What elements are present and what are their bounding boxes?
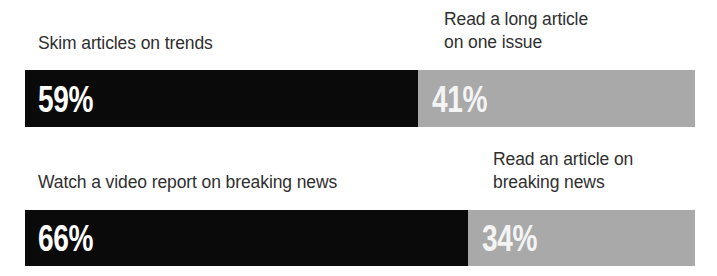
bar-value-label-34: 34% [482, 221, 537, 257]
category-label-read-article-breaking-news: Read an article on breaking news [493, 148, 633, 194]
category-label-read-long-article: Read a long article on one issue [444, 8, 588, 54]
bar-value-label-66: 66% [38, 221, 93, 257]
stacked-bar-chart-skim-vs-read: Skim articles on trends Read a long arti… [0, 0, 717, 138]
bar-segment-read-long-article: 41% [418, 70, 695, 127]
bar-segment-watch-video-report: 66% [25, 210, 468, 266]
bar-track: 66% 34% [25, 210, 695, 266]
bar-value-label-41: 41% [432, 82, 487, 118]
bar-track: 59% 41% [25, 70, 695, 127]
bar-segment-read-article-breaking-news: 34% [468, 210, 695, 266]
bar-segment-skim-articles: 59% [25, 70, 418, 127]
stacked-bar-chart-watch-vs-read: Watch a video report on breaking news Re… [0, 138, 717, 276]
category-label-skim-articles: Skim articles on trends [38, 32, 213, 55]
bar-value-label-59: 59% [38, 82, 93, 118]
category-label-watch-video-report: Watch a video report on breaking news [38, 171, 337, 194]
